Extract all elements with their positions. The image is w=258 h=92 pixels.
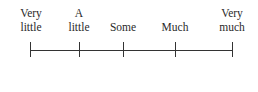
anchor-line1: A	[62, 6, 96, 20]
scale-axis-line	[30, 50, 232, 51]
anchor-line1: Very	[214, 6, 250, 20]
tick-mark	[123, 42, 124, 57]
anchor-very-much: Very much	[214, 6, 250, 34]
anchor-line2: Much	[156, 20, 194, 34]
anchor-line2: Some	[104, 20, 142, 34]
anchor-a-little: A little	[62, 6, 96, 34]
anchor-some: Some	[104, 6, 142, 34]
anchor-line1	[156, 6, 194, 20]
tick-mark	[232, 42, 233, 57]
tick-mark	[175, 42, 176, 57]
anchor-very-little: Very little	[14, 6, 48, 34]
anchor-line2: little	[14, 20, 48, 34]
anchor-line2: little	[62, 20, 96, 34]
anchor-much: Much	[156, 6, 194, 34]
anchor-line2: much	[214, 20, 250, 34]
anchor-line1	[104, 6, 142, 20]
tick-mark	[79, 42, 80, 57]
anchor-line1: Very	[14, 6, 48, 20]
tick-mark	[30, 42, 31, 57]
